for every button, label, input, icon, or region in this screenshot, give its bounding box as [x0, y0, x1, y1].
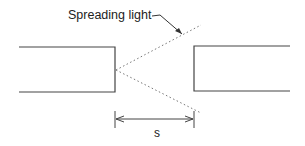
label-leader-arrow — [152, 15, 182, 34]
left-fiber — [19, 47, 115, 92]
gap-s-label: s — [154, 126, 160, 140]
right-fiber — [194, 46, 290, 91]
fiber-gap-diagram — [0, 0, 305, 146]
spreading-light-label: Spreading light — [68, 8, 151, 22]
spreading-light-cone — [116, 25, 201, 113]
